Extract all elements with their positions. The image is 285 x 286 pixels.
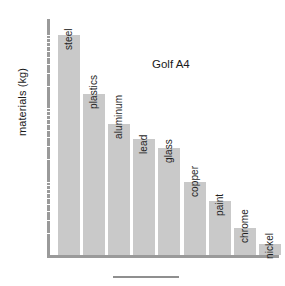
y-minor-tick: [47, 119, 50, 120]
y-minor-tick: [47, 38, 50, 39]
y-minor-tick: [47, 124, 50, 125]
bar-label-paint: paint: [214, 193, 225, 215]
y-minor-tick: [47, 35, 50, 36]
y-minor-tick: [47, 159, 50, 160]
y-minor-tick: [47, 182, 50, 183]
y-axis-title: materials (kg): [16, 42, 28, 162]
bar-label-plastics: plastics: [88, 75, 99, 109]
y-minor-tick: [47, 189, 50, 190]
bar-label-glass: glass: [163, 139, 174, 163]
y-minor-tick: [47, 73, 50, 74]
y-minor-tick: [47, 220, 50, 221]
y-minor-tick: [47, 46, 50, 47]
y-minor-tick: [47, 86, 50, 87]
bar-lead[interactable]: [133, 139, 155, 255]
bar-steel[interactable]: [58, 35, 80, 256]
bar-label-lead: lead: [138, 135, 149, 154]
y-minor-tick: [47, 64, 50, 65]
y-minor-tick: [47, 130, 50, 131]
y-minor-tick: [47, 204, 50, 205]
y-minor-tick: [47, 146, 50, 147]
y-minor-tick: [47, 111, 50, 112]
y-axis-line: [47, 19, 50, 255]
y-minor-tick: [47, 51, 50, 52]
y-minor-tick: [47, 198, 50, 199]
bar-aluminum[interactable]: [108, 124, 130, 255]
bar-glass[interactable]: [158, 148, 180, 255]
bar-label-chrome: chrome: [239, 209, 250, 243]
chart-figure: materials (kg) Golf A4 103102101100 stee…: [0, 0, 285, 286]
y-minor-tick: [47, 137, 50, 138]
bar-label-aluminum: aluminum: [113, 95, 124, 139]
x-axis-line: [47, 255, 279, 258]
y-minor-tick: [47, 233, 50, 234]
bottom-rule: [113, 276, 179, 278]
y-minor-tick: [47, 42, 50, 43]
y-minor-tick: [47, 57, 50, 58]
y-minor-tick: [47, 108, 50, 109]
y-minor-tick: [47, 115, 50, 116]
y-minor-tick: [47, 193, 50, 194]
bar-label-steel: steel: [63, 28, 74, 50]
bar-plastics[interactable]: [83, 94, 105, 255]
bar-label-copper: copper: [189, 165, 200, 196]
y-minor-tick: [47, 185, 50, 186]
plot-area: 103102101100 steelplasticsaluminumleadgl…: [47, 14, 279, 256]
y-minor-tick: [47, 211, 50, 212]
bar-label-nickel: nickel: [264, 233, 275, 259]
